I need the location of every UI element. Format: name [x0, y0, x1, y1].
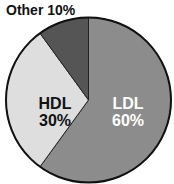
other-label-text: Other 10% [6, 2, 75, 18]
ldl-slice-label: LDL 60% [103, 95, 153, 129]
other-slice-label: Other 10% [6, 2, 75, 18]
ldl-label-name: LDL [103, 95, 153, 112]
hdl-label-value: 30% [30, 112, 80, 129]
hdl-label-name: HDL [30, 95, 80, 112]
ldl-label-value: 60% [103, 112, 153, 129]
pie-chart-graphic [0, 0, 174, 184]
hdl-slice-label: HDL 30% [30, 95, 80, 129]
pie-chart: Other 10% HDL 30% LDL 60% [0, 0, 174, 184]
